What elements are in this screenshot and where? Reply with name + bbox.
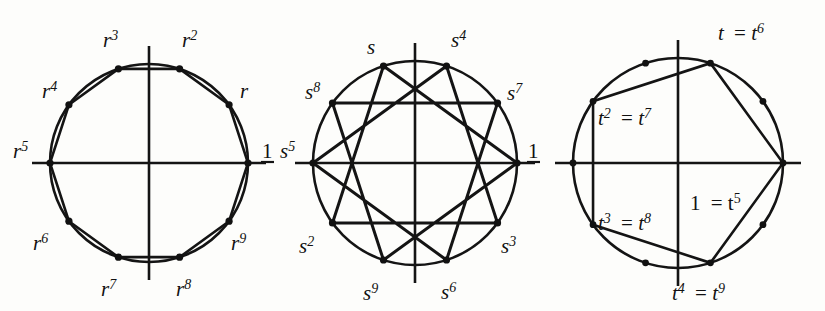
- label-base: s: [507, 81, 515, 105]
- label-alt-exponent: 7: [644, 106, 652, 121]
- label-exponent: 3: [508, 234, 516, 249]
- vertex-dot: [329, 219, 336, 226]
- tenth-root-marker-dot: [642, 259, 649, 266]
- label-alt-exponent: 6: [757, 21, 764, 36]
- pentagon-vertex-dot: [780, 160, 787, 167]
- label-base: s: [441, 280, 449, 304]
- label-alt-exponent: 5: [734, 191, 741, 206]
- vertex-label: t = t6: [718, 21, 764, 45]
- label-exponent: 5: [21, 139, 28, 154]
- vertex-dot: [443, 62, 450, 69]
- vertex-label: s3: [501, 234, 516, 258]
- vertex-label: r9: [231, 231, 246, 255]
- vertex-dot: [443, 256, 450, 263]
- pentagon-vertex-dot: [707, 259, 714, 266]
- vertex-label: r3: [103, 28, 118, 52]
- label-exponent: 4: [50, 79, 57, 94]
- roots-of-unity-figure: 1rr2r3r4r5r6r7r8r91s7s4ss8s5s2s9s6s31 = …: [0, 0, 825, 311]
- vertex-dot: [225, 218, 232, 225]
- vertex-label: 1: [262, 139, 273, 163]
- label-base: 1: [528, 139, 539, 163]
- label-equals: =: [616, 106, 638, 130]
- vertex-label: s9: [363, 281, 378, 305]
- vertex-dot: [115, 65, 122, 72]
- vertex-label: s4: [451, 28, 466, 52]
- vertex-label: t2 = t7: [598, 106, 652, 130]
- vertex-dot: [46, 159, 53, 166]
- label-exponent: 6: [449, 280, 456, 295]
- vertex-label: s8: [305, 80, 320, 104]
- vertex-label: r4: [42, 79, 57, 103]
- label-equals: =: [616, 211, 638, 235]
- vertex-label: s6: [441, 280, 456, 304]
- vertex-dot: [244, 159, 251, 166]
- label-base: 1: [262, 139, 273, 163]
- label-alt-exponent: 9: [718, 281, 725, 296]
- vertex-label: r: [240, 79, 249, 103]
- vertex-label: r7: [101, 277, 117, 301]
- pentagon-vertex-dot: [590, 98, 597, 105]
- fifth-roots-pentagon: [555, 40, 801, 286]
- label-base: s: [280, 139, 288, 163]
- figure-canvas: 1rr2r3r4r5r6r7r8r91s7s4ss8s5s2s9s6s31 = …: [0, 0, 825, 311]
- label-base: s: [451, 28, 459, 52]
- label-equals: =: [729, 21, 751, 45]
- label-exponent: 4: [678, 281, 685, 296]
- label-exponent: 2: [307, 234, 314, 249]
- label-exponent: 9: [239, 231, 246, 246]
- pentagon-vertex-dot: [590, 221, 597, 228]
- label-base: s: [363, 281, 371, 305]
- vertex-dot: [65, 218, 72, 225]
- vertex-dot: [380, 62, 387, 69]
- label-base: s: [367, 35, 375, 59]
- label-exponent: 3: [110, 28, 118, 43]
- label-base: s: [299, 234, 307, 258]
- vertex-label: s: [367, 35, 375, 59]
- label-base: s: [305, 80, 313, 104]
- label-exponent: 2: [190, 28, 197, 43]
- label-exponent: 7: [515, 81, 523, 96]
- vertex-dot: [380, 256, 387, 263]
- label-base: r: [240, 79, 249, 103]
- vertex-dot: [329, 99, 336, 106]
- vertex-dot: [513, 159, 520, 166]
- vertex-dot: [176, 254, 183, 261]
- vertex-label: r6: [33, 231, 48, 255]
- vertex-label: t3 = t8: [598, 211, 651, 235]
- vertex-label: t4 = t9: [672, 281, 725, 305]
- label-exponent: 5: [288, 139, 295, 154]
- vertex-label: r5: [13, 139, 28, 163]
- label-base: 1: [690, 191, 701, 215]
- label-exponent: 2: [604, 106, 611, 121]
- vertex-dot: [494, 219, 501, 226]
- vertex-dot: [225, 101, 232, 108]
- tenth-root-marker-dot: [760, 98, 767, 105]
- label-exponent: 6: [41, 231, 48, 246]
- label-equals: =: [690, 281, 712, 305]
- vertex-dot: [176, 65, 183, 72]
- label-exponent: 3: [603, 211, 611, 226]
- vertex-label: 1 = t5: [690, 191, 741, 215]
- vertex-label: s7: [507, 81, 523, 105]
- label-equals: =: [706, 191, 728, 215]
- vertex-label: 1: [528, 139, 539, 163]
- vertex-dot: [115, 254, 122, 261]
- label-exponent: 4: [459, 28, 466, 43]
- geometry-layer: [32, 40, 801, 286]
- vertex-label: r8: [176, 277, 191, 301]
- tenth-root-marker-dot: [642, 60, 649, 67]
- tenth-root-marker-dot: [760, 221, 767, 228]
- pentagon-vertex-dot: [707, 60, 714, 67]
- vertex-label: r2: [182, 28, 197, 52]
- label-base: s: [501, 234, 509, 258]
- tenth-root-marker-dot: [570, 160, 577, 167]
- label-exponent: 8: [313, 80, 320, 95]
- vertex-dot: [309, 159, 316, 166]
- vertex-label: s5: [280, 139, 295, 163]
- label-alt-exponent: 8: [644, 211, 651, 226]
- label-exponent: 7: [109, 277, 117, 292]
- vertex-dot: [65, 101, 72, 108]
- vertex-dot: [494, 99, 501, 106]
- vertex-label: s2: [299, 234, 314, 258]
- label-exponent: 9: [371, 281, 378, 296]
